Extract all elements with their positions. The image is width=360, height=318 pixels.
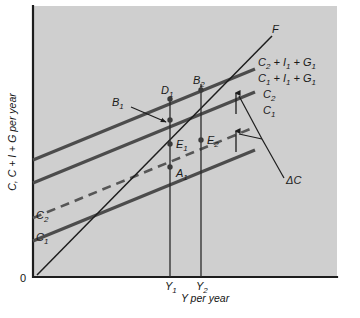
ae2-g: + G <box>290 56 312 68</box>
B1-base: B <box>112 96 119 108</box>
c2l-c: C <box>36 209 44 221</box>
B2-sub: 2 <box>199 80 205 89</box>
D1-base: D <box>161 84 169 96</box>
y-axis-title: C, C + I + G per year <box>6 93 18 191</box>
svg-text:Y1: Y1 <box>165 280 177 295</box>
c1r-sub: 1 <box>271 110 275 119</box>
chart-svg: Y1 Y2 0 Y per year C, C + I + G per year… <box>0 0 360 318</box>
c1l-c: C <box>36 231 44 243</box>
ae1-i: + I <box>270 72 286 84</box>
annotation-delta-c: ΔC <box>285 174 301 186</box>
c1r-c: C <box>263 104 271 116</box>
ae1-g: + G <box>290 72 312 84</box>
economics-figure: Y1 Y2 0 Y per year C, C + I + G per year… <box>0 0 360 318</box>
ae2-c: C <box>258 56 266 68</box>
x-axis-title: Y per year <box>181 292 230 304</box>
E2-sub: 2 <box>213 140 219 149</box>
point-E1 <box>167 141 172 146</box>
A1-sub: 1 <box>183 173 187 182</box>
c2l-sub: 2 <box>43 215 49 224</box>
E1-sub: 1 <box>183 144 187 153</box>
ae2-g-sub: 1 <box>312 62 316 71</box>
x-tick-y1: Y1 <box>165 280 177 295</box>
origin-label: 0 <box>20 272 26 284</box>
B1-sub: 1 <box>119 102 123 111</box>
point-E2 <box>198 137 203 142</box>
ae1-g-sub: 1 <box>312 78 316 87</box>
ae1-c: C <box>258 72 266 84</box>
point-A1 <box>167 164 172 169</box>
A1-base: A <box>175 167 183 179</box>
c1l-sub: 1 <box>44 237 48 246</box>
c2r-c: C <box>263 88 271 100</box>
x-tick-y1-sub: 1 <box>172 286 176 295</box>
ae2-i: + I <box>270 56 286 68</box>
c2r-sub: 2 <box>270 94 276 103</box>
point-B1 <box>167 117 172 122</box>
D1-sub: 1 <box>169 90 173 99</box>
B2-base: B <box>193 74 200 86</box>
